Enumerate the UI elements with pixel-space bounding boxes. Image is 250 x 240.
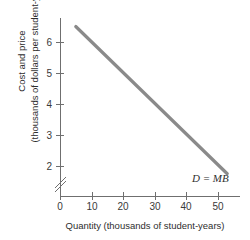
series-line-demand bbox=[76, 27, 227, 174]
x-axis-label: Quantity (thousands of student-years) bbox=[40, 220, 250, 231]
x-tick-30 bbox=[155, 192, 156, 200]
x-tick-10 bbox=[92, 192, 93, 200]
y-axis-break-icon bbox=[53, 174, 69, 194]
y-tick-3 bbox=[56, 135, 64, 136]
series-label-demand: D = MB bbox=[192, 172, 229, 184]
x-ticklabel-30: 30 bbox=[143, 201, 167, 212]
x-tick-50 bbox=[218, 192, 219, 200]
x-ticklabel-20: 20 bbox=[111, 201, 135, 212]
x-ticklabel-50: 50 bbox=[206, 201, 230, 212]
y-tick-6 bbox=[56, 42, 64, 43]
y-tick-4 bbox=[56, 104, 64, 105]
x-ticklabel-10: 10 bbox=[80, 201, 104, 212]
y-axis-label-line1: Cost and price bbox=[15, 0, 28, 151]
x-tick-20 bbox=[123, 192, 124, 200]
x-ticklabel-0: 0 bbox=[48, 201, 72, 212]
y-axis-line bbox=[60, 18, 61, 196]
y-axis-label-line2: (thousands of dollars per student-year) bbox=[28, 0, 41, 151]
chart-figure: 6 5 4 3 2 0 10 20 30 40 50 Cost and pric… bbox=[0, 0, 250, 240]
x-tick-0 bbox=[60, 192, 61, 200]
y-ticklabel-2: 2 bbox=[38, 161, 52, 172]
y-axis-label: Cost and price (thousands of dollars per… bbox=[15, 0, 41, 151]
y-tick-5 bbox=[56, 73, 64, 74]
x-tick-40 bbox=[186, 192, 187, 200]
x-axis-line bbox=[60, 196, 240, 197]
y-tick-2 bbox=[56, 166, 64, 167]
x-ticklabel-40: 40 bbox=[174, 201, 198, 212]
